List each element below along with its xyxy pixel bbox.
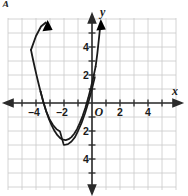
y-tick-label: 4 bbox=[83, 41, 89, 53]
origin-label: O bbox=[95, 105, 104, 119]
x-tick-label: –4 bbox=[28, 106, 40, 118]
parabola-left-arrow bbox=[42, 20, 52, 31]
parabola-left-branch-upper bbox=[31, 23, 46, 50]
x-axis-label: x bbox=[171, 84, 178, 98]
x-tick-label: 4 bbox=[145, 106, 151, 118]
axes bbox=[4, 14, 182, 194]
graph-figure: A bbox=[0, 0, 188, 196]
x-tick-label: –2 bbox=[56, 106, 68, 118]
coordinate-plane: y x O –4 –2 2 4 4 2 2 4 bbox=[0, 0, 188, 196]
parabola-right-branch bbox=[96, 25, 101, 67]
x-axis-arrow-left bbox=[4, 99, 13, 106]
y-axis-arrow-up bbox=[88, 14, 95, 23]
y-axis-arrow-down bbox=[88, 185, 95, 194]
y-axis-label: y bbox=[98, 5, 106, 19]
y-tick-label: 4 bbox=[83, 153, 89, 165]
parabola-right-arrow bbox=[96, 19, 105, 31]
x-tick-label: 2 bbox=[117, 106, 123, 118]
y-tick-label: 2 bbox=[83, 125, 89, 137]
y-tick-label: 2 bbox=[83, 69, 89, 81]
parabola-curve bbox=[31, 19, 106, 145]
x-axis-arrow-right bbox=[173, 99, 182, 106]
